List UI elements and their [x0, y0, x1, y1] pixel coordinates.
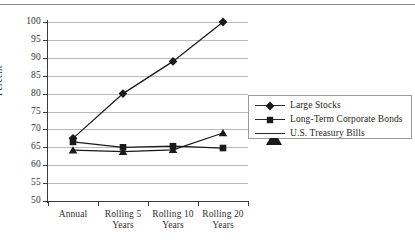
x-axis-end-tick — [248, 201, 249, 206]
data-point-square — [70, 139, 77, 146]
y-axis-tick-label: 90 — [0, 53, 41, 63]
legend-marker-diamond-icon — [266, 102, 275, 111]
y-axis-tick-label: 65 — [0, 142, 41, 152]
chart-legend: Large StocksLong-Term Corporate BondsU.S… — [248, 95, 412, 139]
gridline — [48, 183, 248, 184]
series-group — [69, 129, 228, 155]
series-group — [69, 18, 228, 143]
y-axis-tick-label: 70 — [0, 124, 41, 134]
gridline — [48, 40, 248, 41]
series-line — [73, 133, 223, 152]
gridline — [48, 76, 248, 77]
legend-item[interactable]: Long-Term Corporate Bonds — [255, 113, 411, 126]
gridline — [48, 112, 248, 113]
data-point-square — [220, 145, 227, 152]
x-axis-tickmark — [148, 201, 149, 206]
y-axis-tick-label: 100 — [0, 17, 41, 27]
y-axis-tick-label: 75 — [0, 107, 41, 117]
legend-marker-square-icon — [267, 117, 273, 123]
y-axis-tick-label: 85 — [0, 71, 41, 81]
y-axis-tick-label: 80 — [0, 89, 41, 99]
legend-marker-triangle-icon — [266, 130, 282, 145]
x-axis-tick-label-line: Rolling 20 — [188, 209, 258, 220]
y-axis-tick-label: 50 — [0, 196, 41, 206]
y-axis-tick-label: 95 — [0, 35, 41, 45]
gridline — [48, 165, 248, 166]
legend-item-label: Long-Term Corporate Bonds — [290, 114, 403, 125]
x-axis-tickmark — [198, 201, 199, 206]
y-axis-tick-label: 60 — [0, 160, 41, 170]
data-point-triangle — [119, 148, 128, 155]
legend-item-label: Large Stocks — [290, 100, 341, 111]
gridline — [48, 129, 248, 130]
gridline — [48, 94, 248, 95]
gridline — [48, 22, 248, 23]
y-axis-tick-label: 55 — [0, 178, 41, 188]
x-axis-tick-label: Rolling 20Years — [188, 209, 258, 231]
gridline — [48, 147, 248, 148]
series-group — [70, 139, 227, 152]
top-horizontal-rule — [0, 4, 415, 5]
data-point-diamond — [69, 134, 78, 143]
x-axis-tick-label-line: Years — [188, 220, 258, 231]
gridline — [48, 58, 248, 59]
legend-item[interactable]: U.S. Treasury Bills — [255, 127, 411, 140]
y-axis-title: Percent — [0, 65, 4, 96]
y-axis-line — [47, 20, 48, 203]
legend-key-triangle-icon — [255, 127, 285, 140]
legend-key-square-icon — [255, 113, 285, 126]
chart-figure: 50556065707580859095100 Percent AnnualRo… — [0, 0, 415, 249]
x-axis-end-tick — [48, 201, 49, 206]
legend-item[interactable]: Large Stocks — [255, 99, 411, 112]
legend-item-label: U.S. Treasury Bills — [290, 128, 365, 139]
x-axis-tickmark — [98, 201, 99, 206]
data-point-triangle — [219, 129, 228, 136]
legend-key-diamond-icon — [255, 99, 285, 112]
